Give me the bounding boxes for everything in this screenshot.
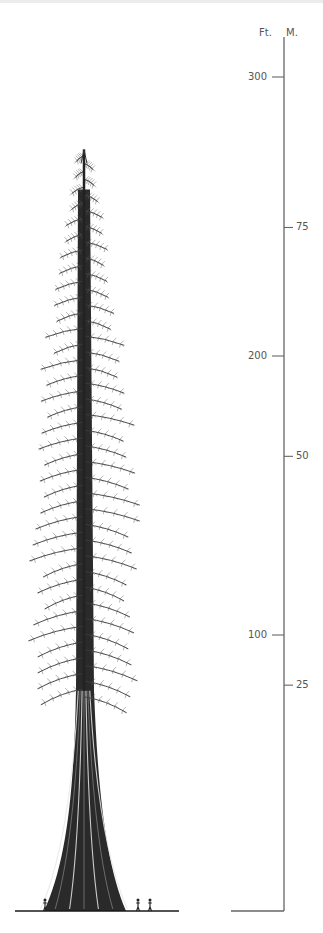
needle-tuft <box>64 672 68 679</box>
needle-tuft <box>60 328 64 335</box>
needle-tuft <box>105 383 109 390</box>
needle-tuft <box>98 381 102 388</box>
needle-tuft <box>112 385 116 392</box>
needle-tuft <box>71 217 75 224</box>
needle-tuft <box>67 326 71 333</box>
needle-tuft <box>73 577 77 584</box>
needle-tuft <box>57 501 61 508</box>
needle-tuft <box>113 493 117 500</box>
needle-tuft <box>107 478 111 485</box>
needle-tuft <box>117 686 121 693</box>
branch <box>28 626 84 641</box>
needle-tuft <box>61 407 65 414</box>
needle-tuft <box>105 430 109 437</box>
needle-tuft <box>73 655 77 662</box>
needle-tuft <box>47 678 51 685</box>
height-scale-axis <box>231 37 293 911</box>
needle-tuft <box>61 314 65 321</box>
needle-tuft <box>96 211 100 218</box>
needle-tuft <box>68 249 72 256</box>
needle-tuft <box>39 683 43 690</box>
needle-tuft <box>67 374 71 381</box>
needle-tuft <box>52 457 56 464</box>
needle-tuft <box>56 675 60 682</box>
needle-tuft <box>100 680 104 687</box>
needle-tuft <box>101 617 105 624</box>
needle-tuft <box>95 366 99 373</box>
needle-tuft <box>98 586 102 593</box>
needle-tuft <box>99 476 103 483</box>
needle-tuft <box>125 691 129 698</box>
needle-tuft <box>56 659 60 666</box>
needle-tuft <box>49 473 53 480</box>
needle-tuft <box>50 393 54 400</box>
needle-tuft <box>65 344 69 351</box>
needle-tuft <box>59 454 63 461</box>
needle-tuft <box>97 429 101 436</box>
feet-tick-label: 300 <box>248 71 267 83</box>
needle-tuft <box>53 612 57 619</box>
needle-tuft <box>124 496 128 503</box>
needle-tuft <box>70 295 74 302</box>
needle-tuft <box>105 336 109 343</box>
needle-tuft <box>111 462 115 469</box>
needle-tuft <box>66 484 70 491</box>
needle-tuft <box>61 547 65 554</box>
needle-tuft <box>65 688 69 695</box>
needle-tuft <box>99 696 103 703</box>
needle-tuft <box>64 251 68 258</box>
needle-tuft <box>115 639 119 646</box>
person-head <box>149 899 152 902</box>
needle-tuft <box>118 544 122 551</box>
needle-tuft <box>105 306 109 313</box>
branch <box>29 548 84 561</box>
needle-tuft <box>106 572 110 579</box>
needle-tuft <box>59 298 63 305</box>
needle-tuft <box>71 279 75 286</box>
tree-scale-figure <box>0 0 323 933</box>
needle-tuft <box>53 533 57 540</box>
needle-tuft <box>114 449 118 456</box>
needle-tuft <box>65 281 69 288</box>
needle-tuft <box>122 707 126 714</box>
needle-tuft <box>59 486 63 493</box>
needle-tuft <box>52 599 56 606</box>
meter-tick-label: 75 <box>296 221 309 233</box>
needle-tuft <box>62 531 66 538</box>
needle-tuft <box>102 322 106 329</box>
needle-tuft <box>103 507 107 514</box>
needle-tuft <box>71 311 75 318</box>
needle-tuft <box>59 346 63 353</box>
needle-tuft <box>108 604 112 611</box>
needle-tuft <box>94 257 98 264</box>
needle-tuft <box>98 570 102 577</box>
needle-tuft <box>100 649 104 656</box>
needle-tuft <box>90 256 94 263</box>
needle-tuft <box>65 499 69 506</box>
needle-tuft <box>113 509 117 516</box>
needle-tuft <box>68 265 72 272</box>
needle-tuft <box>102 554 106 561</box>
needle-tuft <box>114 702 118 709</box>
needle-tuft <box>63 267 67 274</box>
feet-tick-label: 200 <box>248 350 267 362</box>
needle-tuft <box>105 588 109 595</box>
needle-tuft <box>48 441 52 448</box>
needle-tuft <box>112 433 116 440</box>
needle-tuft <box>99 633 103 640</box>
needle-tuft <box>58 422 62 429</box>
needle-tuft <box>96 241 100 248</box>
tree-illustration <box>28 150 139 911</box>
needle-tuft <box>96 350 100 357</box>
needle-tuft <box>74 232 78 239</box>
needle-tuft <box>96 288 100 295</box>
needle-tuft <box>57 470 61 477</box>
needle-tuft <box>96 273 100 280</box>
person-body <box>136 902 140 912</box>
needle-tuft <box>112 557 116 564</box>
needle-tuft <box>96 227 100 234</box>
needle-tuft <box>68 405 72 412</box>
meter-tick-label: 25 <box>296 679 309 691</box>
needle-tuft <box>61 625 65 632</box>
needle-tuft <box>100 275 104 282</box>
